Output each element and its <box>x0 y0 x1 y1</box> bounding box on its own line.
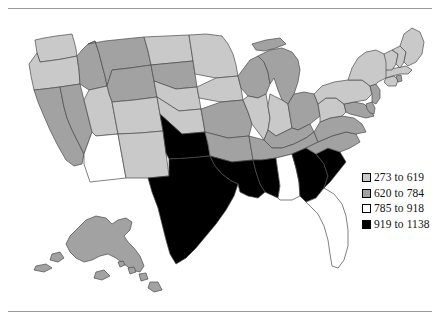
state-MN <box>189 34 238 78</box>
us-map-svg <box>0 14 440 304</box>
legend-swatch-icon-1 <box>362 189 371 198</box>
state-PA <box>314 80 372 104</box>
legend-label-2: 785 to 918 <box>374 203 424 215</box>
legend-label-0: 273 to 619 <box>374 172 424 184</box>
map-legend: 273 to 619 620 to 784 785 to 918 919 to … <box>362 170 438 232</box>
legend-item-2[interactable]: 785 to 918 <box>362 201 438 217</box>
legend-item-3[interactable]: 919 to 1138 <box>362 217 438 233</box>
figure-canvas: 273 to 619 620 to 784 785 to 918 919 to … <box>0 0 440 324</box>
choropleth-map <box>0 14 440 304</box>
legend-label-1: 620 to 784 <box>374 188 424 200</box>
bottom-rule <box>8 311 432 312</box>
state-WY <box>107 65 157 102</box>
legend-item-1[interactable]: 620 to 784 <box>362 186 438 202</box>
state-AK <box>34 216 144 280</box>
top-rule <box>8 8 432 9</box>
state-CO <box>112 97 163 134</box>
state-NM <box>118 131 169 178</box>
state-IA <box>197 76 243 102</box>
legend-swatch-icon-0 <box>362 173 371 182</box>
state-MO <box>201 100 252 138</box>
legend-swatch-icon-2 <box>362 204 371 213</box>
legend-label-3: 919 to 1138 <box>374 219 430 231</box>
state-ND <box>144 35 193 65</box>
legend-swatch-icon-3 <box>362 220 371 229</box>
legend-item-0[interactable]: 273 to 619 <box>362 170 438 186</box>
